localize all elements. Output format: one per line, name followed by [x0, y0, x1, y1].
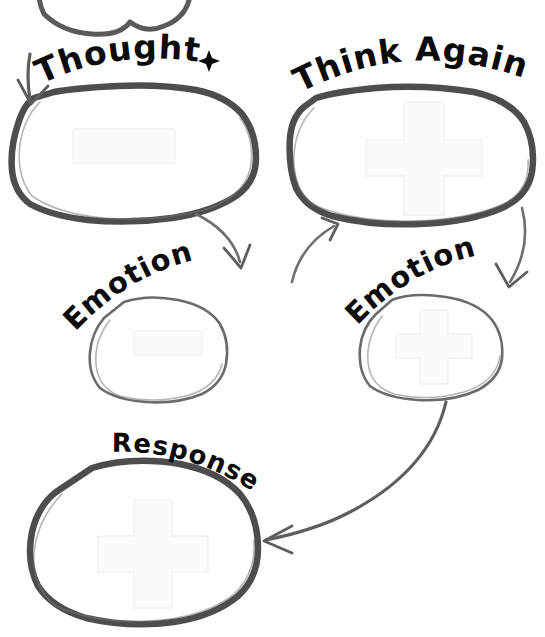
star-accent-icon: [198, 50, 220, 72]
worksheet-canvas: Thought Think Again Emotion Emotion Resp…: [0, 0, 545, 637]
label-emotion-right: Emotion: [338, 229, 479, 331]
labels-layer: Thought Think Again Emotion Emotion Resp…: [0, 0, 545, 637]
label-response: Response: [112, 428, 266, 497]
label-emotion-left: Emotion: [56, 234, 196, 337]
label-think-again: Think Again: [287, 30, 534, 100]
label-thought: Thought: [29, 27, 203, 91]
